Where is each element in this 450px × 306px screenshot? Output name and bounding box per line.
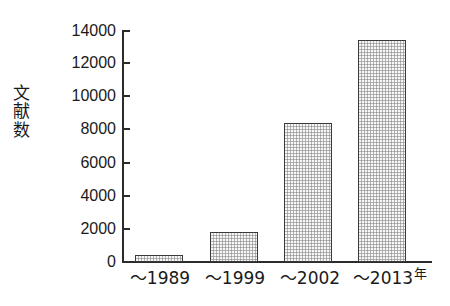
y-tick-mark-0 <box>122 261 130 263</box>
bar-2 <box>284 123 332 262</box>
y-axis-title-char-1: 文 <box>8 84 34 102</box>
bar-1 <box>210 232 258 262</box>
y-tick-label-0: 0 <box>40 254 116 270</box>
y-tick-mark-6000 <box>122 162 130 164</box>
y-tick-mark-2000 <box>122 228 130 230</box>
y-axis-title-char-2: 献 <box>8 102 34 120</box>
bar-3 <box>358 40 406 262</box>
x-axis-unit-label: 年 <box>414 266 427 282</box>
y-tick-mark-14000 <box>122 30 130 32</box>
y-tick-label-12000: 12000 <box>40 55 116 71</box>
y-tick-mark-4000 <box>122 195 130 197</box>
y-tick-mark-12000 <box>122 62 130 64</box>
y-axis-title-char-3: 数 <box>8 121 34 139</box>
y-tick-mark-10000 <box>122 95 130 97</box>
y-tick-label-10000: 10000 <box>40 88 116 104</box>
y-tick-label-8000: 8000 <box>40 121 116 137</box>
y-tick-label-6000: 6000 <box>40 155 116 171</box>
y-axis-title: 文 献 数 <box>8 84 34 139</box>
y-tick-label-2000: 2000 <box>40 221 116 237</box>
bar-0 <box>135 255 183 262</box>
y-tick-mark-8000 <box>122 128 130 130</box>
y-tick-label-14000: 14000 <box>40 23 116 39</box>
bar-chart: 文 献 数 0 2000 4000 6000 8000 10000 12000 … <box>0 0 450 306</box>
y-tick-label-4000: 4000 <box>40 188 116 204</box>
